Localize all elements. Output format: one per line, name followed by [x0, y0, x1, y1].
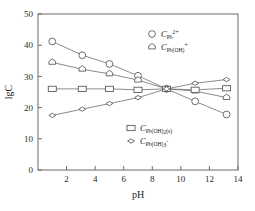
data-point-diamond — [106, 101, 113, 105]
data-point-circle — [49, 38, 56, 45]
x-tick-label: 8 — [150, 174, 155, 184]
x-tick-label: 12 — [205, 174, 214, 184]
data-point-diamond — [223, 77, 230, 81]
y-tick-label: 10 — [24, 134, 34, 144]
data-point-square — [78, 86, 86, 91]
data-point-circle — [79, 52, 86, 59]
x-axis-title: pH — [132, 189, 144, 200]
legend-label-circle: CPb2+ — [161, 29, 179, 40]
x-tick-label: 10 — [176, 174, 186, 184]
y-tick-label: 50 — [24, 9, 34, 19]
data-point-hexagon — [49, 59, 56, 64]
data-point-circle — [106, 61, 113, 68]
data-point-circle — [192, 98, 199, 105]
y-tick-label: 30 — [24, 72, 34, 82]
data-point-diamond — [135, 95, 142, 99]
data-point-square — [191, 87, 199, 92]
x-tick-label: 14 — [234, 174, 244, 184]
x-tick-label: 4 — [93, 174, 98, 184]
data-point-hexagon — [223, 94, 230, 99]
legend-label-square: CPb(OH)2(s) — [140, 123, 172, 135]
chart-svg: 246810121401020304050pHlgCCPb2+CPb(OH)+C… — [0, 0, 255, 211]
data-point-hexagon — [79, 66, 86, 71]
legend-marker-circle — [149, 31, 156, 38]
chart-container: 246810121401020304050pHlgCCPb2+CPb(OH)+C… — [0, 0, 255, 211]
y-tick-label: 40 — [24, 40, 34, 50]
data-point-square — [48, 86, 56, 91]
data-point-diamond — [49, 113, 56, 117]
data-point-circle — [223, 111, 230, 118]
x-tick-label: 6 — [121, 174, 126, 184]
y-tick-label: 0 — [29, 165, 34, 175]
legend-marker-hexagon — [149, 44, 156, 49]
data-point-diamond — [79, 107, 86, 111]
legend-marker-square — [127, 125, 135, 130]
data-point-diamond — [192, 81, 199, 85]
data-point-square — [223, 86, 231, 91]
y-tick-label: 20 — [24, 103, 34, 113]
data-point-square — [105, 86, 113, 91]
legend-label-diamond: CPb(OH)3- — [140, 136, 168, 148]
data-point-hexagon — [106, 70, 113, 75]
x-tick-label: 2 — [64, 174, 69, 184]
legend-marker-diamond — [128, 139, 135, 143]
y-axis-title: lgC — [3, 84, 14, 99]
data-point-square — [134, 87, 142, 92]
legend-label-hexagon: CPb(OH)+ — [161, 42, 188, 54]
